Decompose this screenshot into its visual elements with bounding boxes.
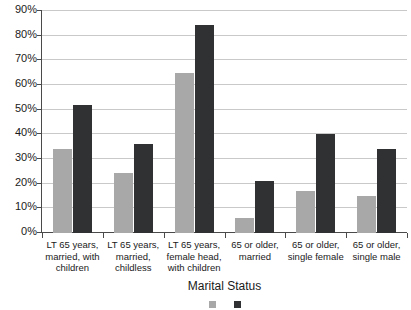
bar-group [164,10,225,233]
chart-legend [42,301,407,310]
bar [296,191,315,233]
bar [235,218,254,233]
y-axis-tick-label: 70% [1,53,37,64]
x-axis-tick [225,233,226,238]
bar [53,149,72,233]
x-axis-tick [42,233,43,238]
bar [73,105,92,233]
y-axis-tick-label: 40% [1,127,37,138]
bar-group [103,10,164,233]
bar-group [346,10,407,233]
legend-item [234,301,241,308]
y-axis-tick-label: 80% [1,29,37,40]
bar [316,134,335,233]
bar-group [42,10,103,233]
bar [377,149,396,233]
bar [175,73,194,233]
x-axis-category-label: 65 or older,single male [346,239,407,274]
x-axis-category-label: LT 65 years,married, withchildren [42,239,103,274]
bar-group [224,10,285,233]
legend-swatch [234,301,241,308]
x-axis-tick [346,233,347,238]
bar-chart: 90%80%70%60%50%40%30%20%10%0% LT 65 year… [0,0,411,310]
bar [195,25,214,233]
x-axis-tick [103,233,104,238]
x-axis-title: Marital Status [42,279,407,293]
x-axis-tick [285,233,286,238]
y-axis-tick-label: 20% [1,177,37,188]
legend-item [209,301,216,308]
x-axis-category-label: LT 65 years,female head,with children [164,239,225,274]
y-axis-tick-label: 90% [1,4,37,15]
x-axis-ticks [42,233,407,238]
y-axis-tick-label: 0% [1,226,37,237]
y-axis-tick-label: 30% [1,152,37,163]
x-axis-tick [407,233,408,238]
bar [357,196,376,233]
y-axis-tick-label: 50% [1,103,37,114]
bar [255,181,274,233]
x-axis-tick [164,233,165,238]
bar-groups [42,10,407,233]
x-axis-category-label: LT 65 years,married,childless [103,239,164,274]
x-axis-labels: LT 65 years,married, withchildrenLT 65 y… [42,239,407,274]
x-axis-category-label: 65 or older,single female [285,239,346,274]
x-axis-category-label: 65 or older,married [224,239,285,274]
y-axis-labels: 90%80%70%60%50%40%30%20%10%0% [0,0,37,310]
bar [114,173,133,233]
legend-swatch [209,301,216,308]
bar-group [285,10,346,233]
bar [134,144,153,233]
y-axis-tick-label: 10% [1,201,37,212]
y-axis-tick-label: 60% [1,78,37,89]
